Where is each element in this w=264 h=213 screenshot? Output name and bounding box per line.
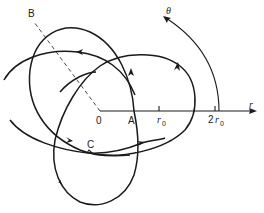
label-2r0: 2 r 0 xyxy=(208,114,224,127)
r-axis xyxy=(100,106,257,114)
label-a: A xyxy=(128,115,135,126)
svg-text:0: 0 xyxy=(162,120,166,127)
label-b: B xyxy=(28,8,35,19)
label-r0: r 0 xyxy=(157,114,166,127)
theta-arc xyxy=(163,16,219,111)
orbit-diagram: 0 A B C r θ r 0 2 r 0 xyxy=(0,0,264,213)
svg-text:0: 0 xyxy=(220,120,224,127)
label-r-axis: r xyxy=(249,99,253,110)
line-0-to-b xyxy=(34,22,100,111)
theta-arrow-icon xyxy=(163,16,171,23)
label-origin: 0 xyxy=(96,115,102,126)
svg-text:r: r xyxy=(215,114,219,125)
label-theta: θ xyxy=(166,5,171,16)
label-c: C xyxy=(87,139,94,150)
orbit-arrow-icon xyxy=(66,137,73,143)
svg-text:2: 2 xyxy=(208,114,214,125)
orbit-arrow-icon xyxy=(128,68,134,76)
svg-text:r: r xyxy=(157,114,161,125)
